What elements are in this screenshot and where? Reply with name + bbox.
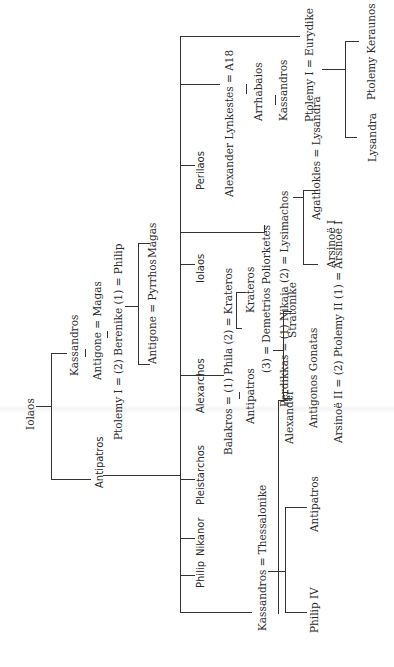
line (264, 225, 265, 233)
line (85, 349, 86, 357)
person-arsinoe-i: Arsinoë I (325, 220, 337, 268)
person-magas-child: Magas (146, 223, 158, 258)
person-alexarchos: Alexarchos (195, 358, 207, 413)
person-ptolemy-eurydike: Ptolemy I = Eurydike (303, 8, 315, 122)
line (51, 353, 52, 480)
person-kassandros-thessalonike: Kassandros = Thessalonike (256, 485, 268, 631)
line (138, 364, 150, 365)
person-krateros-son: Krateros (244, 267, 256, 313)
line (246, 84, 247, 94)
person-antipatros: Antipatros (94, 437, 106, 489)
person-demetrios: (3) = Demetrios Poliorketes (260, 225, 272, 373)
line (268, 571, 285, 572)
line (275, 95, 276, 105)
line (125, 306, 138, 307)
line (285, 612, 307, 613)
line (285, 507, 286, 613)
line (180, 232, 264, 233)
line (180, 612, 252, 613)
line (285, 507, 307, 508)
line (180, 575, 195, 576)
line (51, 353, 67, 354)
person-pleistarchos: Pleistarchos (195, 445, 207, 505)
line (345, 41, 346, 137)
line (36, 406, 51, 407)
line (337, 69, 345, 70)
person-alexander-lynkestes: Alexander Lynkestes = A18 (223, 50, 235, 197)
person-iolaos-son: Iolaos (195, 254, 207, 283)
person-balakros-phila-krateros: Balakros = (1) Phila (2) = Krateros (222, 268, 234, 455)
person-philip: Philip (195, 561, 207, 588)
person-antigone-pyrrhos: Antigone = Pyrrhos (146, 259, 158, 364)
line (180, 165, 195, 166)
line (239, 392, 240, 399)
line (180, 479, 195, 480)
line (103, 475, 180, 476)
line (236, 292, 237, 328)
line (236, 328, 242, 329)
person-philip-iv: Philip IV (308, 587, 320, 633)
person-antigone-magas: Antigone = Magas (91, 281, 103, 380)
person-lysandra: Lysandra (366, 113, 378, 162)
line (293, 197, 303, 198)
line (345, 137, 357, 138)
line (345, 41, 359, 42)
line (180, 36, 300, 37)
person-antipatros-balakros: Antipatros (244, 368, 256, 424)
person-kassandros: Kassandros (68, 315, 80, 376)
line (51, 479, 91, 480)
line (278, 400, 279, 614)
line (322, 69, 337, 70)
line (180, 264, 195, 265)
line (107, 331, 108, 338)
person-nikanor: Nikanor (195, 517, 207, 556)
person-arrhabaios: Arrhabaios (252, 62, 264, 121)
person-ptolemy-berenike-philip: Ptolemy I = (2) Berenike (1) = Philip (112, 244, 124, 440)
person-kassandros-arrhabaios: Kassandros (277, 60, 289, 121)
person-ptolemy-keraunos: Ptolemy Keraunos (365, 3, 377, 100)
person-perilaos: Perilaos (195, 151, 207, 190)
line (180, 538, 195, 539)
line (180, 36, 181, 613)
line (303, 264, 318, 265)
line (180, 375, 224, 376)
person-antigonos-gonatas: Antigonos Gonatas (307, 328, 319, 428)
person-antipatros-son: Antipatros (308, 476, 320, 532)
line (180, 84, 220, 85)
line (303, 190, 304, 264)
line (138, 243, 139, 364)
person-perdikkas-nikaia-lysimachos: Perdikkas = (1) Nikaia (2) = Lysimachos (278, 191, 290, 407)
person-iolaos-root: Iolaos (24, 398, 36, 430)
